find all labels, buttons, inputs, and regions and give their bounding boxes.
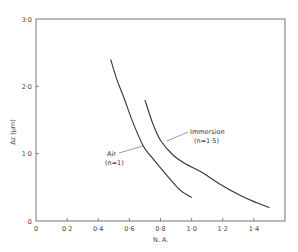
plot-frame (36, 19, 285, 221)
y-tick-label: 1·0 (22, 150, 32, 158)
y-tick-label: 2·0 (22, 83, 32, 91)
immersion-label-sub: (n=1·5) (194, 137, 219, 145)
x-tick-label: 1·4 (249, 225, 259, 233)
y-tick-label: 3·0 (22, 16, 32, 24)
x-tick-label: 0·4 (93, 225, 103, 233)
air-annotation: Air (n=1) (105, 146, 143, 167)
y-tick-label: 0 (28, 218, 32, 226)
immersion-leader-line (167, 132, 188, 141)
chart-figure: 00·20·40·60·81·01·21·4 01·02·03·0 N. A. … (0, 0, 298, 252)
x-axis-label: N. A. (153, 236, 168, 244)
x-tick-label: 0 (34, 225, 38, 233)
air-curve (111, 59, 192, 197)
x-tick-label: 1·2 (218, 225, 228, 233)
x-tick-label: 0·8 (155, 225, 165, 233)
x-tick-label: 1·0 (186, 225, 196, 233)
air-leader-line (119, 146, 143, 153)
x-axis-ticks: 00·20·40·60·81·01·21·4 (34, 218, 259, 233)
immersion-annotation: Immersion (n=1·5) (167, 128, 225, 145)
air-label: Air (107, 150, 116, 158)
y-axis-label: Δz (μm) (9, 119, 17, 144)
immersion-curve (145, 100, 270, 208)
air-label-sub: (n=1) (105, 159, 124, 167)
immersion-label: Immersion (190, 128, 225, 136)
x-tick-label: 0·6 (124, 225, 134, 233)
x-tick-label: 0·2 (62, 225, 72, 233)
